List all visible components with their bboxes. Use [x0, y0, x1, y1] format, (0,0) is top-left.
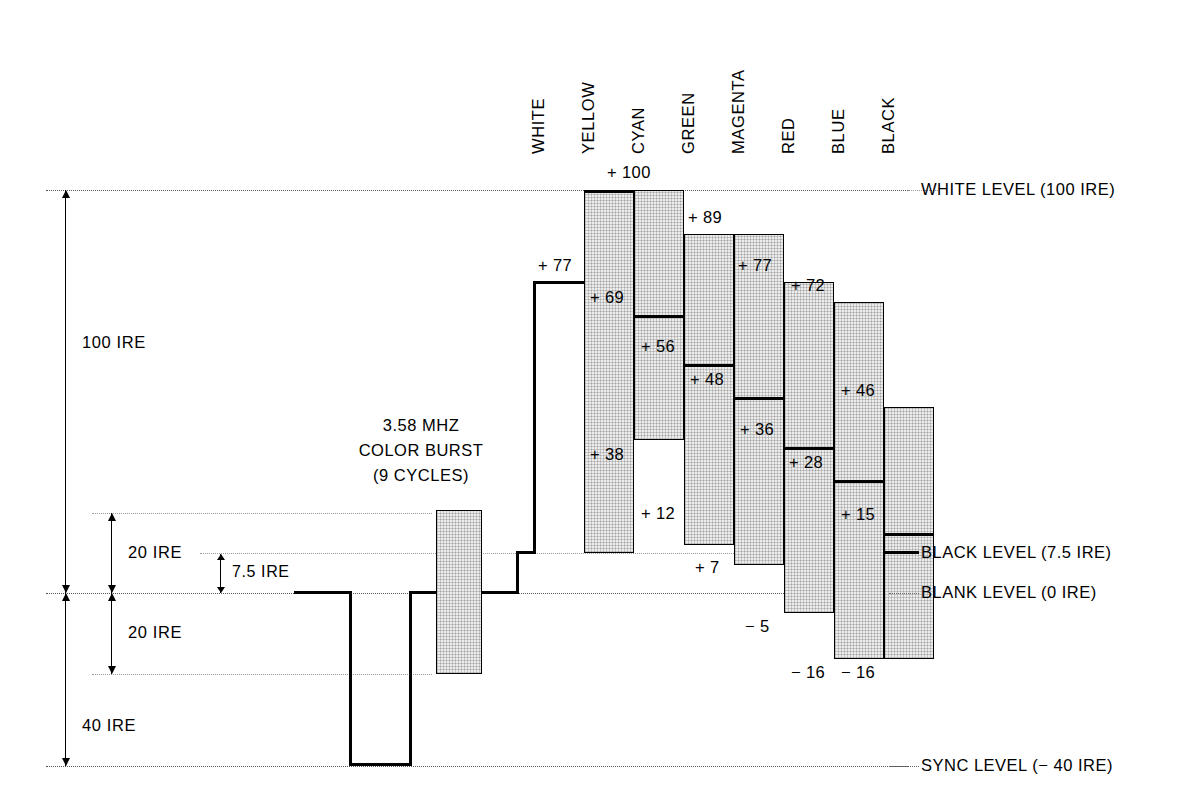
value-blue-top: + 46: [841, 381, 875, 400]
dimension-40-ire: [65, 593, 66, 766]
legend-label-blank-level: BLANK LEVEL (0 IRE): [921, 583, 1097, 602]
color-label-white: WHITE: [529, 98, 548, 154]
luminance-line-magenta: [784, 447, 834, 450]
luminance-line-yellow: [634, 315, 684, 318]
dimension-100-ire: [65, 190, 66, 593]
value-green-luminance: + 48: [690, 370, 724, 389]
color-label-yellow: YELLOW: [579, 82, 598, 154]
legend-label-sync-level: SYNC LEVEL (− 40 IRE): [921, 756, 1113, 775]
trace-white-step-top: [533, 281, 586, 284]
value-yellow-bottom: + 38: [590, 445, 624, 464]
color-label-cyan: CYAN: [629, 107, 648, 154]
value-red-bottom: − 16: [791, 663, 825, 682]
legend-key-blank-level: [889, 593, 919, 594]
value-cyan-top: + 89: [688, 208, 722, 227]
color-label-blue: BLUE: [829, 108, 848, 154]
trace-setup-riser: [516, 553, 519, 594]
luminance-line-blue: [884, 533, 934, 536]
color-label-black: BLACK: [879, 97, 898, 154]
minus20-ire-line: [92, 674, 432, 675]
trace-sync-trailing-edge: [409, 591, 412, 766]
burst-line-2: COLOR BURST: [331, 438, 511, 463]
trace-white-riser: [533, 281, 536, 553]
value-magenta-bottom: − 5: [745, 617, 770, 636]
plus20-ire-line: [92, 513, 432, 514]
value-cyan-luminance: + 56: [641, 337, 675, 356]
color-burst-packet: [436, 510, 482, 674]
luminance-line-red: [834, 480, 884, 483]
color-label-red: RED: [779, 117, 798, 154]
trace-blanking-front: [294, 591, 352, 594]
legend-key-black-level: [889, 551, 919, 554]
legend-label-black-level: BLACK LEVEL (7.5 IRE): [921, 543, 1112, 562]
legend-label-white-level: WHITE LEVEL (100 IRE): [921, 180, 1115, 199]
color-label-green: GREEN: [679, 92, 698, 154]
burst-line-3: (9 CYCLES): [331, 463, 511, 488]
dimension-7p5-ire: [220, 554, 221, 593]
dimension-label-100-ire: 100 IRE: [82, 333, 146, 352]
value-green-bottom: + 7: [695, 558, 720, 577]
value-magenta-top: + 77: [738, 256, 772, 275]
burst-line-1: 3.58 MHZ: [331, 413, 511, 438]
color-burst-label: 3.58 MHZ COLOR BURST (9 CYCLES): [331, 413, 511, 488]
value-yellow-luminance: + 69: [590, 288, 624, 307]
bar-white: [584, 190, 634, 553]
luminance-line-cyan: [684, 364, 734, 367]
bar-cyan: [684, 234, 734, 545]
value-red-luminance: + 28: [789, 453, 823, 472]
dimension-label-lower-20-ire: 20 IRE: [128, 623, 182, 642]
value-cyan-bottom: + 12: [641, 504, 675, 523]
value-white-top: + 100: [607, 163, 651, 182]
trace-sync-tip: [349, 763, 412, 766]
dimension-upper-20-ire: [111, 513, 112, 593]
dimension-label-40-ire: 40 IRE: [82, 716, 136, 735]
legend-key-sync-level: [889, 766, 919, 767]
dimension-label-upper-20-ire: 20 IRE: [128, 543, 182, 562]
dimension-lower-20-ire: [111, 593, 112, 674]
ntsc-waveform-diagram: 100 IRE 40 IRE 20 IRE 20 IRE 7.5 IRE 3.5…: [0, 0, 1177, 808]
value-magenta-luminance: + 36: [740, 420, 774, 439]
dimension-label-7p5-ire: 7.5 IRE: [232, 563, 290, 581]
white-level-line: [46, 190, 908, 191]
luminance-line-green: [734, 397, 784, 400]
sync-level-line: [46, 766, 908, 767]
value-blue-bottom: − 16: [841, 663, 875, 682]
value-red-top: + 72: [791, 276, 825, 295]
trace-sync-leading-edge: [349, 591, 352, 766]
color-label-magenta: MAGENTA: [729, 69, 748, 154]
value-setup-step: + 77: [538, 256, 572, 275]
luminance-line-white: [584, 190, 634, 193]
value-blue-luminance: + 15: [841, 505, 875, 524]
